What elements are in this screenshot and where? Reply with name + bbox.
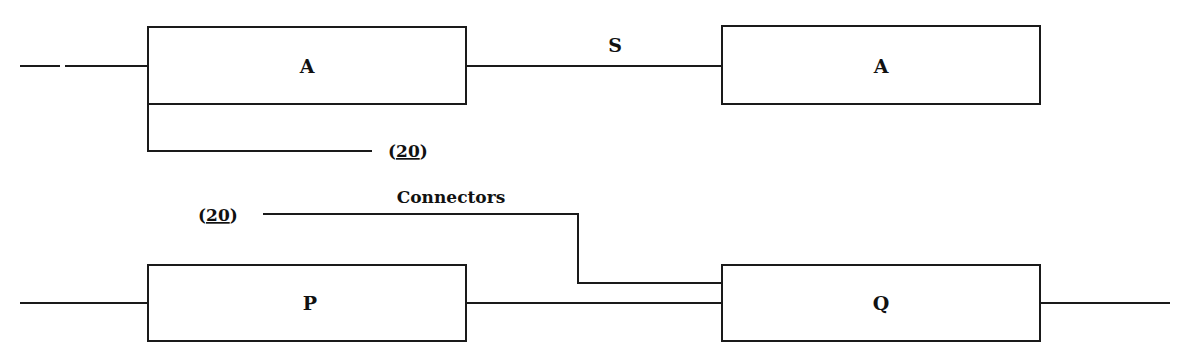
ref-bottom-close: )	[230, 205, 238, 225]
branch-line-a1	[148, 104, 372, 151]
reference-20-bottom: (20)	[198, 205, 238, 225]
block-q-label: Q	[873, 292, 890, 314]
block-a1-label: A	[299, 55, 315, 77]
ref-top-number: 20	[396, 141, 420, 161]
connector-s-label: S	[608, 34, 622, 56]
connectors-label: Connectors	[397, 187, 505, 207]
ref-top-close: )	[420, 141, 428, 161]
block-diagram: A S A (20) (20) Connectors P Q	[0, 0, 1193, 359]
block-p-label: P	[303, 292, 317, 314]
block-a2-label: A	[873, 55, 889, 77]
ref-bottom-open: (	[198, 205, 206, 225]
ref-bottom-number: 20	[206, 205, 230, 225]
reference-20-top: (20)	[388, 141, 428, 161]
ref-top-open: (	[388, 141, 396, 161]
